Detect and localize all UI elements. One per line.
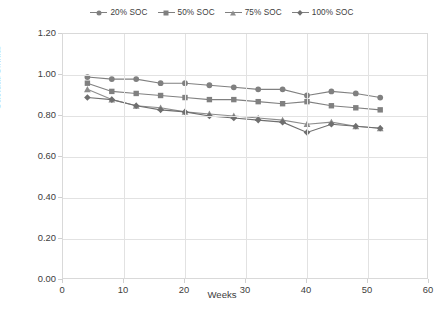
gridline-horizontal	[63, 239, 427, 240]
square-marker-icon	[231, 97, 236, 102]
square-marker-icon	[378, 107, 383, 112]
legend-label-75-soc: 75% SOC	[245, 8, 282, 17]
gridline-vertical	[185, 34, 186, 278]
y-tickmark	[58, 156, 62, 157]
gridline-horizontal	[63, 157, 427, 158]
gridline-vertical	[124, 34, 125, 278]
square-marker-icon	[329, 103, 334, 108]
gridline-horizontal	[63, 198, 427, 199]
diamond-marker-icon	[297, 10, 303, 16]
circle-marker-icon	[255, 86, 261, 92]
x-tickmark	[123, 279, 124, 283]
square-marker-icon	[134, 91, 139, 96]
legend-label-50-soc: 50% SOC	[178, 8, 215, 17]
square-marker-icon	[280, 101, 285, 106]
series-20-soc	[85, 74, 384, 100]
legend-line-75-soc	[225, 12, 242, 13]
legend-line-100-soc	[292, 12, 309, 13]
diamond-marker-icon	[84, 94, 91, 101]
legend-item-75-soc[interactable]: 75% SOC	[225, 8, 282, 17]
gridline-vertical	[246, 34, 247, 278]
y-tick-label: 1.20	[18, 27, 56, 38]
x-tickmark	[62, 279, 63, 283]
y-axis-title: Cactual/Cinitial	[0, 46, 2, 110]
square-marker-icon	[353, 105, 358, 110]
circle-marker-icon	[96, 10, 101, 15]
circle-marker-icon	[158, 80, 164, 86]
circle-marker-icon	[133, 76, 139, 82]
triangle-marker-icon	[230, 10, 236, 15]
y-tick-label: 1.00	[18, 68, 56, 79]
square-marker-icon	[109, 89, 114, 94]
x-tickmark	[428, 279, 429, 283]
y-tick-label: 0.80	[18, 109, 56, 120]
x-tickmark	[306, 279, 307, 283]
gridline-vertical	[368, 34, 369, 278]
legend-label-20-soc: 20% SOC	[110, 8, 147, 17]
triangle-marker-icon	[84, 86, 91, 92]
y-tickmark	[58, 197, 62, 198]
legend-item-50-soc[interactable]: 50% SOC	[158, 8, 215, 17]
legend-line-20-soc	[90, 12, 107, 13]
y-tick-label: 0.60	[18, 150, 56, 161]
circle-marker-icon	[353, 91, 359, 97]
legend-label-100-soc: 100% SOC	[312, 8, 354, 17]
gridline-horizontal	[63, 116, 427, 117]
gridline-horizontal	[63, 75, 427, 76]
chart-legend: 20% SOC 50% SOC 75% SOC 100% SOC	[0, 8, 444, 17]
y-tickmark	[58, 33, 62, 34]
circle-marker-icon	[329, 89, 335, 95]
square-marker-icon	[207, 97, 212, 102]
x-tickmark	[245, 279, 246, 283]
circle-marker-icon	[207, 82, 213, 88]
circle-marker-icon	[280, 86, 286, 92]
square-marker-icon	[85, 81, 90, 86]
square-marker-icon	[256, 99, 261, 104]
y-tickmark	[58, 238, 62, 239]
square-marker-icon	[164, 10, 169, 15]
legend-item-20-soc[interactable]: 20% SOC	[90, 8, 147, 17]
y-tick-label: 0.00	[18, 273, 56, 284]
y-tickmark	[58, 74, 62, 75]
gridline-vertical	[307, 34, 308, 278]
legend-line-50-soc	[158, 12, 175, 13]
plot-area	[62, 33, 428, 279]
y-tick-label: 0.20	[18, 232, 56, 243]
square-marker-icon	[158, 93, 163, 98]
series-line	[87, 89, 380, 128]
circle-marker-icon	[109, 76, 115, 82]
y-tickmark	[58, 115, 62, 116]
x-axis-title: Weeks	[0, 289, 444, 300]
legend-item-100-soc[interactable]: 100% SOC	[292, 8, 354, 17]
circle-marker-icon	[231, 84, 237, 90]
x-tickmark	[184, 279, 185, 283]
y-tick-label: 0.40	[18, 191, 56, 202]
circle-marker-icon	[377, 95, 383, 101]
x-tickmark	[367, 279, 368, 283]
